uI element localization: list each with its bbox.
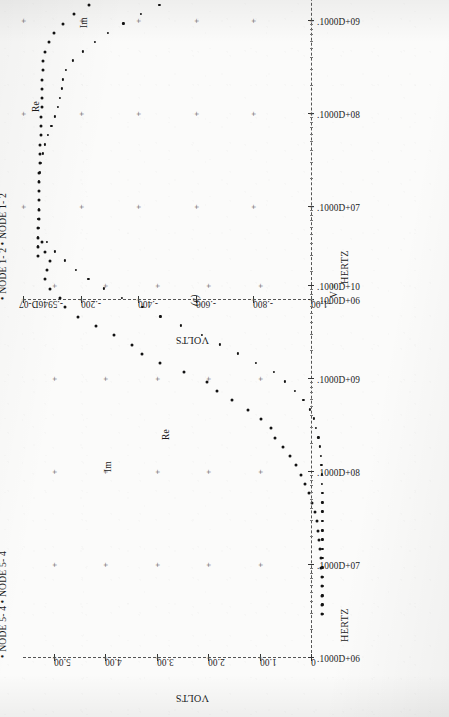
y-axis-title-c: VOLTS [176, 693, 209, 704]
data-point [39, 134, 42, 137]
data-point [158, 4, 160, 6]
x-minor-tick [310, 215, 313, 216]
grid-plus-mark [153, 469, 160, 476]
data-point [62, 78, 64, 80]
x-minor-tick [310, 568, 313, 569]
data-point [272, 371, 274, 373]
v-equals-mark-c: V = [329, 283, 339, 298]
x-minor-tick [310, 601, 313, 602]
data-point [180, 325, 182, 327]
data-point [95, 324, 98, 327]
x-minor-tick [310, 306, 313, 307]
data-point [246, 408, 249, 411]
data-point [40, 125, 43, 128]
data-point [65, 69, 67, 71]
data-point [315, 520, 318, 523]
data-point [141, 352, 144, 355]
grid-plus-mark [256, 469, 263, 476]
data-point [319, 446, 321, 448]
data-point [94, 41, 96, 43]
data-point [41, 241, 44, 244]
x-minor-tick [310, 162, 313, 163]
data-point [40, 162, 42, 164]
grid-plus-mark [205, 469, 212, 476]
data-point [317, 436, 319, 438]
data-point [159, 362, 162, 365]
x-minor-tick [310, 294, 313, 295]
grid-plus-mark [20, 111, 27, 118]
x-minor-tick [310, 178, 313, 179]
x-axis-title-c: HERTZ [339, 608, 350, 642]
data-point [295, 464, 298, 467]
x-major-tick [308, 285, 314, 286]
grid-plus-mark [308, 18, 315, 25]
x-minor-tick [310, 299, 313, 300]
trace-label-im-d: Im [79, 17, 89, 28]
data-point [113, 334, 116, 337]
x-minor-tick [310, 387, 313, 388]
y-tick-label: 2.00 [208, 657, 248, 667]
x-minor-tick [310, 520, 313, 521]
figure-c-canvas: 01.002.003.004.005.00 .1000D+06.1000D+07… [9, 372, 439, 702]
x-tick-label: .1000D+08 [317, 468, 360, 478]
x-major-tick [308, 564, 314, 565]
data-point [46, 269, 49, 272]
data-point [39, 171, 41, 173]
data-point [321, 511, 323, 513]
trace-label-im-c: Im [103, 461, 113, 472]
grid-plus-mark [50, 469, 57, 476]
grid-plus-mark [77, 204, 84, 211]
x-minor-tick [310, 480, 313, 481]
grid-plus-mark [135, 204, 142, 211]
grid-plus-mark [192, 18, 199, 25]
x-axis-title-d: HERTZ [339, 250, 350, 284]
data-point [82, 50, 84, 52]
x-minor-tick [310, 127, 313, 128]
grid-plus-mark [20, 204, 27, 211]
x-minor-tick [310, 415, 313, 416]
grid-plus-mark [250, 111, 257, 118]
data-point [321, 520, 323, 522]
x-major-tick [308, 378, 314, 379]
x-minor-tick [310, 613, 313, 614]
grid-plus-mark [102, 376, 109, 383]
data-point [273, 436, 276, 439]
figure-c: 01.002.003.004.005.00 .1000D+06.1000D+07… [0, 358, 449, 716]
data-point [289, 455, 292, 458]
data-point [320, 455, 322, 457]
data-point [47, 41, 50, 44]
grid-plus-mark [256, 562, 263, 569]
data-point [54, 115, 56, 117]
x-minor-tick [310, 485, 313, 486]
grid-plus-mark [153, 283, 160, 290]
grid-plus-mark [102, 283, 109, 290]
legend-d: • NODE 1- 2 • NODE 1- 2 [0, 193, 8, 300]
y-tick-label: 4.00 [105, 657, 145, 667]
data-point [73, 13, 76, 16]
x-minor-tick [310, 69, 313, 70]
data-point [64, 306, 67, 309]
data-point [57, 106, 59, 108]
x-axis-line-c [311, 286, 312, 658]
grid-plus-mark [50, 283, 57, 290]
data-point [41, 87, 44, 90]
data-point [59, 97, 61, 99]
x-minor-tick [310, 34, 313, 35]
scanned-page: -1.00-.800-.600-.400-.200-.5946D-07 .100… [0, 0, 449, 717]
grid-plus-mark [308, 204, 315, 211]
data-point [254, 362, 256, 364]
data-point [141, 306, 143, 308]
x-minor-tick [310, 150, 313, 151]
data-point [281, 445, 284, 448]
x-minor-tick [310, 427, 313, 428]
grid-plus-mark [205, 283, 212, 290]
data-point [43, 278, 46, 281]
x-tick-label: .1000D+07 [317, 203, 360, 213]
x-minor-tick [310, 499, 313, 500]
grid-plus-mark [250, 18, 257, 25]
grid-plus-mark [135, 18, 142, 25]
x-minor-tick [310, 492, 313, 493]
x-minor-tick [310, 243, 313, 244]
data-point [321, 483, 323, 485]
x-minor-tick [310, 29, 313, 30]
